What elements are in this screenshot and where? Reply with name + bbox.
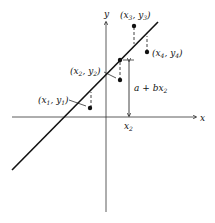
point-label-1: (x1, y1) (38, 95, 69, 106)
regression-diagram: x y (x1, y1) (x2, y2) (x3, y3) (x4, y4) … (0, 0, 215, 223)
point-4 (145, 50, 149, 54)
leader-1 (69, 100, 86, 106)
x2-tick-label: x2 (124, 121, 133, 132)
point-3 (132, 24, 136, 28)
point-label-2: (x2, y2) (70, 66, 101, 77)
regression-line (12, 22, 158, 170)
point-label-4: (x4, y4) (152, 48, 183, 59)
y-axis-label: y (103, 9, 110, 19)
point-2 (118, 78, 122, 82)
fitted-point-x2 (118, 58, 122, 62)
point-label-3: (x3, y3) (120, 10, 151, 21)
x-axis-label: x (200, 113, 205, 123)
fitted-value-label: a + bx2 (134, 83, 167, 94)
point-1 (88, 106, 92, 110)
